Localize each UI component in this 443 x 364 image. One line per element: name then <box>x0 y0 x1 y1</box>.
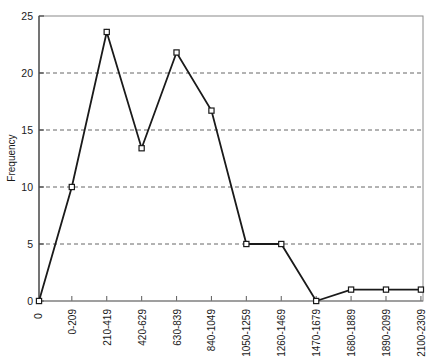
y-tick-label: 20 <box>21 67 33 79</box>
y-axis-label-text: Frequency <box>6 134 17 181</box>
x-tick-label: 420-629 <box>137 309 148 346</box>
x-tick-label: 840-1049 <box>206 309 217 352</box>
y-tick-label: 0 <box>27 295 33 307</box>
y-tick-label: 10 <box>21 181 33 193</box>
data-point-marker <box>209 108 214 113</box>
y-tick-label: 25 <box>21 10 33 22</box>
data-point-marker <box>104 29 109 34</box>
data-point-marker <box>279 241 284 246</box>
data-point-marker <box>244 241 249 246</box>
data-point-marker <box>174 50 179 55</box>
x-tick-label: 0-209 <box>67 309 78 335</box>
x-tick-label: 1260-1469 <box>276 309 287 357</box>
y-axis-label: Frequency <box>6 134 17 181</box>
chart-canvas: 0510152025 0-209210-419420-629630-839840… <box>0 0 443 364</box>
y-tick-label: 15 <box>21 124 33 136</box>
x-axis-ticks: 0-209210-419420-629630-839840-10491050-1… <box>67 296 427 357</box>
data-point-marker <box>69 184 74 189</box>
x-tick-label: 1470-1679 <box>311 309 322 357</box>
x-tick-label: 1890-2099 <box>381 309 392 357</box>
x-tick-label: 630-839 <box>172 309 183 346</box>
data-point-marker <box>36 298 41 303</box>
x-tick-label: 210-419 <box>102 309 113 346</box>
origin-label: 0 <box>32 313 44 319</box>
data-point-marker <box>348 287 353 292</box>
origin-label-text: 0 <box>32 313 44 319</box>
x-tick-label: 2100-2309 <box>416 309 427 357</box>
data-point-marker <box>383 287 388 292</box>
data-point-marker <box>418 287 423 292</box>
x-tick-label: 1680-1889 <box>346 309 357 357</box>
data-point-marker <box>314 298 319 303</box>
plot-frame <box>39 16 423 301</box>
x-tick-label: 1050-1259 <box>241 309 252 357</box>
data-point-marker <box>139 146 144 151</box>
y-tick-label: 5 <box>27 238 33 250</box>
frequency-line-chart: 0510152025 0-209210-419420-629630-839840… <box>0 0 443 364</box>
